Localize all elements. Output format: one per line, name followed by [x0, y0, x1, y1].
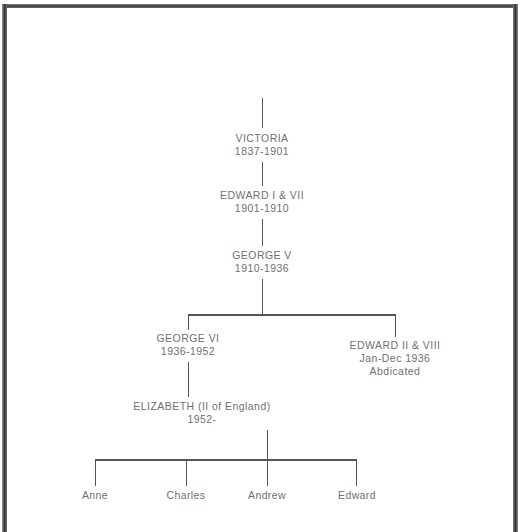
node-edward8-reign: Jan-Dec 1936 — [330, 352, 460, 365]
node-george5-reign: 1910-1936 — [192, 262, 332, 275]
node-george6-name: GEORGE VI — [128, 332, 248, 345]
node-edward7-name: EDWARD I & VII — [187, 189, 337, 202]
node-victoria: VICTORIA 1837-1901 — [192, 132, 332, 158]
node-edward8-note: Abdicated — [330, 365, 460, 378]
node-edward7-reign: 1901-1910 — [187, 202, 337, 215]
node-elizabeth-ii: ELIZABETH (II of England) 1952- — [112, 400, 292, 426]
node-victoria-name: VICTORIA — [192, 132, 332, 145]
node-child-charles: Charles — [151, 489, 221, 502]
node-elizabeth-reign: 1952- — [112, 413, 292, 426]
node-edward8-name: EDWARD II & VIII — [330, 339, 460, 352]
node-child-andrew: Andrew — [232, 489, 302, 502]
node-edward-i-and-vii: EDWARD I & VII 1901-1910 — [187, 189, 337, 215]
node-child-edward: Edward — [322, 489, 392, 502]
node-edward-ii-and-viii: EDWARD II & VIII Jan-Dec 1936 Abdicated — [330, 339, 460, 378]
node-george5-name: GEORGE V — [192, 249, 332, 262]
family-tree-page: VICTORIA 1837-1901 EDWARD I & VII 1901-1… — [0, 0, 528, 532]
node-elizabeth-name: ELIZABETH (II of England) — [112, 400, 292, 413]
node-george-vi: GEORGE VI 1936-1952 — [128, 332, 248, 358]
node-george-v: GEORGE V 1910-1936 — [192, 249, 332, 275]
node-child-anne: Anne — [60, 489, 130, 502]
node-george6-reign: 1936-1952 — [128, 345, 248, 358]
node-victoria-reign: 1837-1901 — [192, 145, 332, 158]
